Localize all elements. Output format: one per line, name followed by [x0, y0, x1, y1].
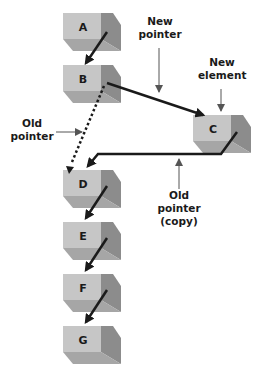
old-pointer-copy-label: Old pointer (copy) [157, 189, 201, 228]
arrow-e-to-f [86, 238, 107, 270]
arrow-b-to-d-old-pointer [72, 86, 104, 162]
arrow-f-to-g [86, 290, 107, 322]
arrow-a-to-b [86, 32, 107, 63]
label-line: pointer [157, 202, 201, 215]
arrow-b-to-c-new-pointer [107, 83, 203, 115]
label-line: New [138, 15, 182, 28]
label-line: pointer [138, 28, 182, 41]
label-line: (copy) [157, 215, 201, 228]
arrow-c-to-d-old-pointer-copy [88, 132, 237, 166]
label-line: element [198, 69, 246, 82]
new-pointer-label: New pointer [138, 15, 182, 41]
arrow-d-to-e [86, 186, 107, 218]
new-element-label: New element [198, 56, 246, 82]
old-pointer-label: Old pointer [10, 117, 54, 143]
label-line: Old [10, 117, 54, 130]
label-line: Old [157, 189, 201, 202]
label-line: New [198, 56, 246, 69]
label-line: pointer [10, 130, 54, 143]
